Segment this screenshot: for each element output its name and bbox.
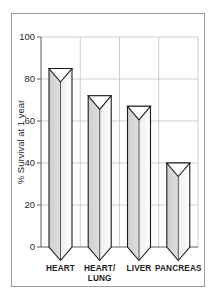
category-label-liver: LIVER: [127, 264, 152, 273]
category-label-pancreas: PANCREAS: [155, 264, 202, 273]
y-tick-label-0: 0: [30, 241, 35, 252]
y-tick-label-100: 100: [19, 31, 35, 42]
bar-heart[interactable]: [49, 69, 72, 261]
y-axis-label-text: % Survival at 1 year: [15, 100, 26, 184]
y-tickmarks: [37, 37, 41, 247]
chart-figure: 100 80 60 40 20 0 % Survival at 1 year: [0, 0, 222, 305]
category-label-heart-lung-line2: LUNG: [88, 274, 112, 283]
y-tick-label-20: 20: [24, 199, 35, 210]
category-label-heart-lung-line1: HEART/: [84, 264, 116, 273]
bar-heart-lung[interactable]: [88, 96, 111, 261]
y-tick-label-40: 40: [24, 157, 35, 168]
category-label-heart: HEART: [46, 264, 75, 273]
x-axis-category-labels: HEART HEART/ LUNG LIVER PANCREAS: [46, 264, 202, 283]
y-tick-label-60: 60: [24, 115, 35, 126]
bar-pancreas[interactable]: [167, 163, 190, 261]
y-axis-label: % Survival at 1 year: [15, 100, 26, 184]
bar-liver[interactable]: [128, 106, 151, 260]
y-tick-label-80: 80: [24, 73, 35, 84]
bar-chart: 100 80 60 40 20 0 % Survival at 1 year: [0, 0, 222, 305]
